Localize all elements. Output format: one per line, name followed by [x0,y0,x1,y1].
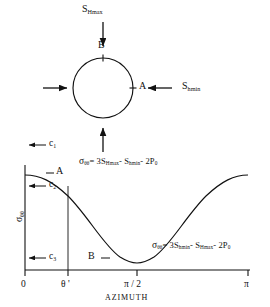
borehole-circle [73,58,133,118]
xtick-label-theta-prime: θ ' [61,280,70,290]
marker-c2: c2 [49,180,56,190]
xtick-label-pi-over-2: π / 2 [124,280,141,290]
equation-hoop-stress-min: σθθ= 3Shmin- SHmax- 2P0 [152,241,230,251]
level-marker-arrows [29,145,46,258]
marker-c3: c3 [49,252,56,262]
curve-point-b-label: B [88,251,95,261]
marker-c1: c1 [49,139,56,149]
wellbore-stress-figure [0,0,270,307]
plot-axes [25,165,250,276]
y-axis-label: σθθ [14,211,24,222]
equation-hoop-stress-max: σθθ= 3SHmax- Shmin- 2P0 [79,157,157,167]
stress-label-shmin: Shmin [182,81,200,91]
wellbore-cross-section [43,22,172,152]
curve-point-a-label: A [56,166,63,176]
xtick-label-pi: π [244,280,249,290]
x-axis-title: AZIMUTH [105,294,148,302]
wellbore-point-a-label: A [139,81,146,91]
wellbore-point-b-label: B [98,40,105,50]
xtick-label-0: 0 [21,280,26,290]
stress-label-shmax: SHmax [82,4,103,14]
